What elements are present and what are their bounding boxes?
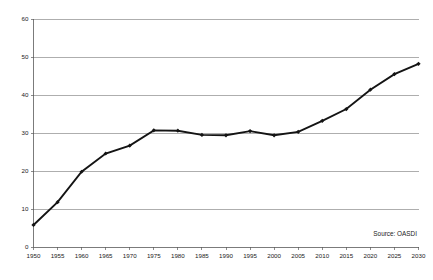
chart-container: 0102030405060 19501955196019651970197519… bbox=[0, 0, 433, 280]
x-axis-tick-label: 2010 bbox=[315, 252, 329, 259]
data-point-marker bbox=[248, 129, 252, 133]
x-axis-tick-label: 1955 bbox=[51, 252, 65, 259]
source-annotation: Source: OASDI bbox=[373, 230, 417, 237]
y-axis-tick-label: 50 bbox=[22, 53, 29, 60]
gridlines bbox=[34, 19, 419, 209]
data-point-marker bbox=[224, 133, 228, 137]
x-axis-tick-label: 1950 bbox=[27, 252, 41, 259]
y-axis-tick-label: 0 bbox=[25, 243, 29, 250]
x-axis-tick-label: 1960 bbox=[75, 252, 89, 259]
x-axis-tick-label: 2030 bbox=[412, 252, 426, 259]
x-axis-tick-label: 1965 bbox=[99, 252, 113, 259]
x-axis-tick-label: 2025 bbox=[388, 252, 402, 259]
y-axis-tick-label: 30 bbox=[22, 129, 29, 136]
data-series-line bbox=[34, 64, 419, 225]
data-point-markers bbox=[31, 62, 420, 227]
y-axis-tick-label: 40 bbox=[22, 91, 29, 98]
y-axis-tick-label: 10 bbox=[22, 205, 29, 212]
x-axis-tick-label: 1990 bbox=[219, 252, 233, 259]
x-axis-tick-label: 1985 bbox=[195, 252, 209, 259]
x-axis-tick-label: 2005 bbox=[291, 252, 305, 259]
x-axis-tick-label: 1975 bbox=[147, 252, 161, 259]
y-axis-tick-label: 20 bbox=[22, 167, 29, 174]
x-axis-tick-label: 1970 bbox=[123, 252, 137, 259]
x-axis-tick-label: 1980 bbox=[171, 252, 185, 259]
x-axis-tick-label: 2000 bbox=[267, 252, 281, 259]
x-axis-tick-labels: 1950195519601965197019751980198519901995… bbox=[27, 252, 426, 259]
data-point-marker bbox=[272, 133, 276, 137]
line-chart: 0102030405060 19501955196019651970197519… bbox=[0, 0, 433, 280]
y-axis-tick-labels: 0102030405060 bbox=[22, 15, 29, 250]
data-point-marker bbox=[200, 133, 204, 137]
axis-ticks bbox=[31, 19, 419, 250]
data-point-marker bbox=[176, 129, 180, 133]
x-axis-tick-label: 2020 bbox=[363, 252, 377, 259]
y-axis-tick-label: 60 bbox=[22, 15, 29, 22]
x-axis-tick-label: 1995 bbox=[243, 252, 257, 259]
x-axis-tick-label: 2015 bbox=[339, 252, 353, 259]
